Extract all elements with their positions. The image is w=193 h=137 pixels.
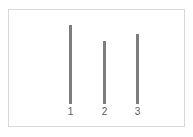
x-tick-label-1: 1	[62, 106, 80, 118]
plot-area: 1 2 3	[9, 10, 186, 128]
x-tick-label-2: 2	[96, 106, 114, 118]
bar-2	[103, 41, 106, 104]
bar-3	[136, 34, 139, 104]
bar-chart-figure: 1 2 3	[0, 0, 193, 137]
plot-frame: 1 2 3	[8, 9, 185, 127]
bar-1	[69, 25, 72, 104]
x-tick-label-3: 3	[129, 106, 147, 118]
